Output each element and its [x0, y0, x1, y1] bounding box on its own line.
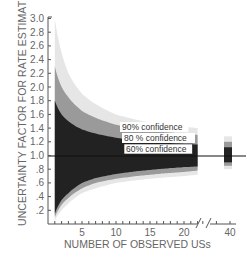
y-tick-label: 3.0	[30, 13, 44, 24]
y-tick-label: 2.4	[30, 54, 44, 65]
y-tick-label: 1.0	[30, 150, 44, 161]
label-60-confidence: 60% confidence	[126, 144, 187, 154]
y-tick-label: 2.6	[30, 40, 44, 51]
x-tick-label: 20	[178, 227, 190, 238]
x-axis-label: NUMBER OF OBSERVED USs	[64, 238, 211, 250]
y-tick-label: 2.0	[30, 82, 44, 93]
axis-break-mark	[206, 218, 211, 228]
y-tick-label: .6	[36, 177, 45, 188]
confidence-bands	[55, 19, 198, 221]
x-tick-label: 15	[144, 227, 156, 238]
x-tick-label: 40	[224, 227, 236, 238]
y-tick-label: 1.4	[30, 123, 44, 134]
axis-break-mark	[196, 218, 201, 228]
x-tick-label: 5	[79, 227, 85, 238]
confidence-bands-at-40	[224, 136, 232, 169]
y-tick-label: 1.2	[30, 136, 44, 147]
y-tick-label: 1.8	[30, 95, 44, 106]
chart: 3.02.82.62.42.22.01.81.61.41.21.0.8.6.4.…	[0, 0, 247, 260]
y-axis-label: UNCERTAINTY FACTOR FOR RATE ESTIMATE	[16, 6, 28, 226]
label-80-confidence: 80 % confidence	[124, 133, 187, 143]
y-tick-label: .8	[36, 164, 45, 175]
label-90-confidence: 90% confidence	[122, 122, 183, 132]
y-tick-label: .2	[36, 205, 45, 216]
y-tick-label: 2.8	[30, 27, 44, 38]
x-tick-label: 10	[110, 227, 122, 238]
y-tick-label: 1.6	[30, 109, 44, 120]
band-at-40-2	[224, 147, 232, 162]
band-labels: 90% confidence80 % confidence60% confide…	[120, 122, 195, 154]
y-tick-label: 2.2	[30, 68, 44, 79]
y-tick-label: .4	[36, 191, 45, 202]
